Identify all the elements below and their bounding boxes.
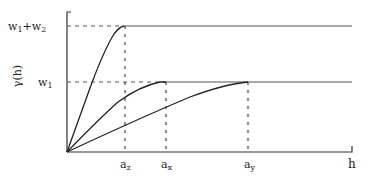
curve-x xyxy=(67,82,166,152)
x-axis xyxy=(67,146,352,152)
variogram-diagram: w1+w2 w1 γ(h) az ax ay h xyxy=(0,0,380,184)
label-ax: ax xyxy=(161,158,173,172)
y-axis-label: γ(h) xyxy=(11,65,24,87)
label-ay: ay xyxy=(244,158,256,172)
curve-z xyxy=(67,26,124,152)
label-w1-plus-w2: w1+w2 xyxy=(8,20,46,34)
variogram-curves xyxy=(67,26,248,152)
range-lines xyxy=(125,26,248,152)
label-az: az xyxy=(120,158,131,172)
curve-y xyxy=(67,82,248,152)
label-w1: w1 xyxy=(38,76,53,90)
x-axis-label: h xyxy=(348,157,356,171)
sill-lines xyxy=(67,26,352,82)
